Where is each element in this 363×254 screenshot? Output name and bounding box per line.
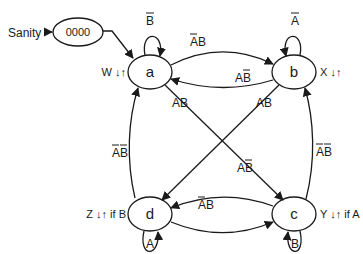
output-a: W ↓↑ bbox=[102, 66, 126, 78]
label-d-a: AB bbox=[112, 146, 128, 160]
output-c: Y ↓↑ if A bbox=[320, 208, 360, 220]
edge-reset-a bbox=[103, 31, 133, 58]
label-c-c: B bbox=[291, 237, 299, 251]
label-c-d: AB bbox=[237, 161, 253, 175]
edge-d-c bbox=[171, 222, 273, 233]
output-b: X ↓↑ bbox=[320, 66, 341, 78]
state-d-label: d bbox=[146, 205, 154, 222]
label-d-c: AB bbox=[198, 198, 214, 212]
output-d: Z ↓↑ if B bbox=[86, 208, 126, 220]
edge-b-b bbox=[285, 36, 301, 56]
label-b-d: AB bbox=[256, 96, 272, 110]
state-a-label: a bbox=[146, 63, 155, 80]
label-a-c: AB bbox=[172, 96, 188, 110]
edge-a-b bbox=[171, 52, 273, 65]
state-diagram: Sanity 0000 a b c d W ↓↑ X ↓↑ Y ↓↑ if A … bbox=[0, 0, 363, 254]
label-d-d: A bbox=[146, 237, 154, 251]
edge-c-b bbox=[305, 88, 313, 199]
label-a-a: B bbox=[146, 14, 154, 28]
state-c-label: c bbox=[290, 205, 298, 222]
label-a-b: AB bbox=[190, 35, 206, 49]
edge-a-a bbox=[144, 36, 160, 56]
state-b-label: b bbox=[290, 63, 298, 80]
edge-d-a bbox=[129, 88, 138, 198]
reset-label: 0000 bbox=[66, 26, 90, 38]
label-b-a: AB bbox=[235, 71, 251, 85]
label-c-b: AB bbox=[316, 145, 332, 159]
sanity-label: Sanity bbox=[8, 26, 41, 40]
edge-b-a bbox=[171, 79, 273, 87]
edge-c-d bbox=[171, 197, 273, 208]
diagram-canvas: Sanity 0000 a b c d W ↓↑ X ↓↑ Y ↓↑ if A … bbox=[0, 0, 363, 254]
label-b-b: A bbox=[291, 14, 299, 28]
